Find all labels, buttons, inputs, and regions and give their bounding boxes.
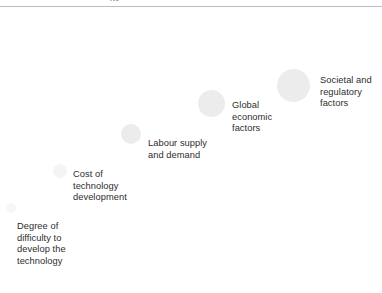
bubble-label-2: Cost of technology development [73,169,127,204]
header-divider [0,6,382,7]
bubble-label-4: Global economic factors [232,100,272,135]
page-title-fragment: gy [110,0,230,1]
bubble-1 [6,203,16,213]
bubble-2 [53,164,67,178]
bubble-label-3: Labour supply and demand [148,138,207,161]
bubble-4 [198,90,225,117]
bubble-3 [121,124,141,144]
bubble-chart-figure: gy Degree of difficulty to develop the t… [0,0,382,293]
bubble-5 [277,69,310,102]
bubble-label-5: Societal and regulatory factors [320,75,372,110]
bubble-label-1: Degree of difficulty to develop the tech… [17,221,66,267]
